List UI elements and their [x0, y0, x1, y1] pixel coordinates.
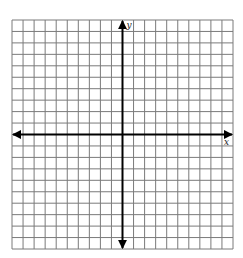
y-axis-label: y — [126, 20, 133, 30]
x-axis-label: x — [224, 137, 229, 147]
coordinate-plane: x y — [0, 0, 243, 258]
